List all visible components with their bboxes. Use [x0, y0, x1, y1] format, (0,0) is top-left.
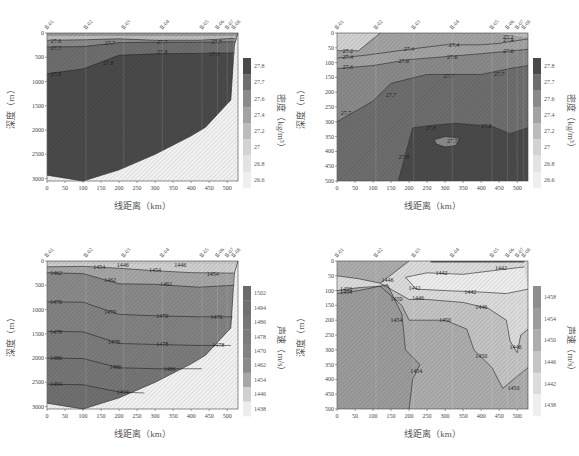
x-tick-label: 100 [79, 185, 88, 191]
colorbar-segment [243, 123, 251, 140]
y-tick-label: 2500 [32, 151, 44, 157]
colorbar-segment [533, 394, 541, 416]
contour-label: 1478 [50, 329, 62, 335]
y-tick-label: 300 [325, 119, 334, 125]
y-tick-label: 3000 [32, 404, 44, 410]
colorbar-segment [243, 156, 251, 173]
colorbar-segment [243, 91, 251, 108]
panel-sound-speed-full-depth: 1462147014781486149414541446145414461454… [0, 228, 289, 456]
y-tick-label: 1000 [32, 307, 44, 313]
contour-label: 1454 [149, 267, 161, 273]
contour-label: 27.4 [343, 54, 354, 60]
y-tick-label: 0 [41, 258, 44, 264]
contour-label: 1478 [212, 342, 224, 348]
colorbar-segment [533, 58, 541, 75]
station-label: Ⅱ-05 [198, 246, 210, 259]
x-tick-label: 300 [151, 413, 160, 419]
x-tick-label: 100 [369, 413, 378, 419]
plot-area: 27.627.727.827.727.827.727.827.727.8 [47, 33, 238, 181]
x-axis-title: 线距离（km） [114, 428, 171, 439]
station-label: Ⅱ-01 [43, 18, 55, 31]
x-tick-label: 250 [423, 413, 432, 419]
contour-label: 27.7 [386, 92, 397, 98]
contour-label: 27.8 [209, 51, 220, 57]
x-tick-label: 200 [405, 413, 414, 419]
x-tick-label: 350 [169, 413, 178, 419]
colorbar-tick-label: 26.6 [544, 177, 555, 183]
colorbar-tick-label: 1502 [254, 290, 266, 296]
contour-label: 1450 [390, 296, 402, 302]
contour-label: 27.7 [105, 40, 116, 46]
colorbar-tick-label: 1438 [544, 402, 556, 408]
colorbar-tick-label: 27.6 [544, 96, 555, 102]
y-tick-label: 100 [325, 288, 334, 294]
contour-label: 27.6 [503, 48, 514, 54]
y-tick-label: 500 [35, 54, 44, 60]
colorbar-segment [533, 373, 541, 395]
colorbar-segment [533, 308, 541, 330]
contour-label: 1442 [464, 289, 476, 295]
contour-label: 27.7 [51, 45, 62, 51]
colorbar-segment [243, 74, 251, 91]
contour-label: 1450 [340, 286, 352, 292]
colorbar-segment [243, 58, 251, 75]
y-tick-label: 500 [325, 406, 334, 412]
station-label: Ⅱ-03 [120, 246, 132, 259]
colorbar-tick-label: 1478 [254, 334, 266, 340]
contour-label: 1454 [207, 271, 219, 277]
x-tick-label: 150 [97, 413, 106, 419]
station-label: Ⅱ-06 [214, 246, 226, 259]
x-tick-label: 250 [423, 185, 432, 191]
x-tick-label: 300 [441, 413, 450, 419]
colorbar-segment [243, 286, 251, 301]
colorbar-tick-label: 1470 [254, 348, 266, 354]
colorbar-segment [243, 300, 251, 315]
contour-label: 1446 [381, 277, 393, 283]
contour-label: 1446 [509, 344, 521, 350]
station-label: Ⅱ-01 [333, 18, 345, 31]
colorbar-segment [243, 358, 251, 373]
contour-label: 1446 [174, 262, 186, 268]
colorbar-tick-label: 1454 [544, 316, 556, 322]
contour-label: 1470 [50, 299, 62, 305]
station-label: Ⅱ-05 [488, 18, 500, 31]
contour-label: 1450 [439, 317, 451, 323]
x-tick-label: 400 [187, 185, 196, 191]
station-label: Ⅱ-03 [120, 18, 132, 31]
station-label: Ⅱ-03 [410, 18, 422, 31]
y-tick-label: 1000 [32, 79, 44, 85]
colorbar-segment [533, 351, 541, 373]
x-tick-label: 300 [151, 185, 160, 191]
y-tick-label: 500 [325, 178, 334, 184]
colorbar-segment [533, 123, 541, 140]
colorbar-segment [533, 329, 541, 351]
colorbar-segment [533, 74, 541, 91]
x-tick-label: 350 [169, 185, 178, 191]
station-label: Ⅱ-06 [504, 246, 516, 259]
chart-c: 1462147014781486149414541446145414461454… [0, 228, 289, 456]
colorbar-tick-label: 27.6 [254, 96, 265, 102]
y-tick-label: 50 [328, 45, 334, 51]
y-tick-label: 300 [325, 347, 334, 353]
plot-area: 1462147014781486149414541446145414461454… [47, 261, 238, 409]
colorbar-title: 声速（m/s） [276, 326, 287, 375]
station-label: Ⅱ-04 [158, 246, 170, 259]
colorbar-segment [533, 286, 541, 308]
x-tick-label: 500 [223, 185, 232, 191]
contour-label: 1462 [50, 270, 62, 276]
contour-label: 1450 [475, 353, 487, 359]
x-tick-label: 500 [513, 413, 522, 419]
x-tick-label: 450 [205, 185, 214, 191]
y-tick-label: 3000 [32, 176, 44, 182]
colorbar-tick-label: 1462 [254, 362, 266, 368]
y-axis-title: 深度（m） [5, 85, 16, 128]
contour-label: 1450 [508, 385, 520, 391]
colorbar-segment [533, 156, 541, 173]
x-tick-label: 50 [62, 413, 68, 419]
station-label: Ⅱ-03 [410, 246, 422, 259]
contour-label: 27.4 [449, 42, 460, 48]
colorbar-tick-label: 26.8 [254, 161, 265, 167]
contour-label: 27.8 [425, 125, 436, 131]
colorbar-segment [533, 139, 541, 156]
y-tick-label: 350 [325, 134, 334, 140]
